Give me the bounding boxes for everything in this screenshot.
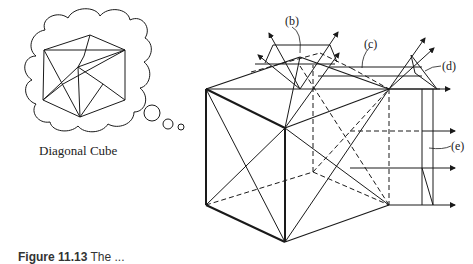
small-diagonal-cube-icon [43,35,125,117]
figure-number: Figure 11.13 [18,250,87,264]
figure-caption: Figure 11.13 The ... [18,250,125,264]
ray-arrows-b [255,32,339,128]
ray-arrows-c-d [318,38,450,89]
caption-text: The ... [91,250,125,264]
thought-bubble [25,9,184,132]
thought-bubble-label: Diagonal Cube [39,143,117,159]
main-cube [206,53,440,242]
callout-d: (d) [442,59,456,74]
callout-c: (c) [364,37,377,52]
callout-e: (e) [451,139,464,154]
callout-b: (b) [285,14,299,29]
